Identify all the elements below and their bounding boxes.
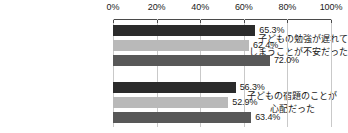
gridline <box>287 19 288 127</box>
x-axis-tick-label: 100% <box>320 2 343 13</box>
bar <box>113 97 228 108</box>
bar <box>113 25 255 36</box>
x-axis-tick-label: 80% <box>279 2 297 13</box>
tick-mark <box>113 20 114 23</box>
bar <box>113 112 251 123</box>
bar-value-label: 52.9% <box>232 97 257 108</box>
bar-value-label: 72.0% <box>274 55 299 66</box>
x-axis-tick-label: 40% <box>191 2 209 13</box>
bar-value-label: 63.4% <box>255 112 280 123</box>
bar <box>113 40 249 51</box>
x-axis-tick-label: 20% <box>148 2 166 13</box>
x-axis-tick-labels: 0%20%40%60%80%100% <box>0 2 348 14</box>
tick-mark <box>244 20 245 23</box>
gridline <box>331 19 332 127</box>
bar-value-label: 62.4% <box>253 40 278 51</box>
bar-value-label: 56.3% <box>240 82 265 93</box>
plot-area: 65.3%62.4%72.0%56.3%52.9%63.4% <box>113 19 331 127</box>
bar-value-label: 65.3% <box>259 25 284 36</box>
tick-mark <box>287 20 288 23</box>
x-axis-tick-label: 60% <box>235 2 253 13</box>
x-axis-line <box>113 19 331 20</box>
tick-mark <box>157 20 158 23</box>
tick-mark <box>331 20 332 23</box>
bar <box>113 82 236 93</box>
tick-mark <box>200 20 201 23</box>
horizontal-bar-chart: 0%20%40%60%80%100% 子どもの勉強が遅れてしまうことが不安だった… <box>0 0 348 133</box>
bar <box>113 55 270 66</box>
x-axis-tick-label: 0% <box>107 2 120 13</box>
